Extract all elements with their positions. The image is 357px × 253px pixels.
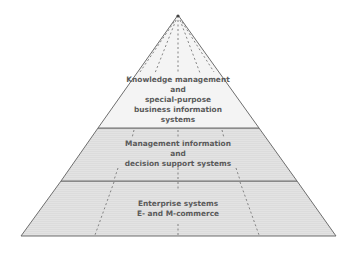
tier-top-line-5: systems xyxy=(126,115,229,125)
tier-top-line-2: and xyxy=(126,85,229,95)
tier-middle-line-2: and xyxy=(125,149,231,159)
tier-middle-line-1: Management information xyxy=(125,139,231,149)
tier-base-label: Enterprise systems E- and M-commerce xyxy=(137,199,219,219)
tier-base-line-1: Enterprise systems xyxy=(137,199,219,209)
tier-top-line-3: special-purpose xyxy=(126,95,229,105)
apex-dot xyxy=(176,14,179,17)
tier-middle-label: Management information and decision supp… xyxy=(125,139,231,169)
tier-middle-line-3: decision support systems xyxy=(125,159,231,169)
tier-base-line-2: E- and M-commerce xyxy=(137,209,219,219)
tier-top-line-4: business information xyxy=(126,105,229,115)
tier-top-label: Knowledge management and special-purpose… xyxy=(126,75,229,125)
tier-top-line-1: Knowledge management xyxy=(126,75,229,85)
